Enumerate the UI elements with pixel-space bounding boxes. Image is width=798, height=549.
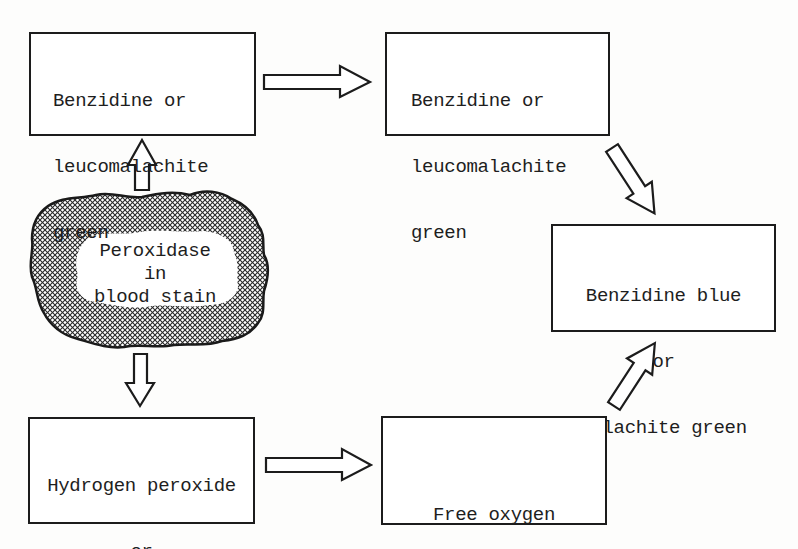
- label-line: Benzidine blue: [566, 285, 761, 307]
- arrow-right-icon: [266, 449, 371, 480]
- arrow-down-right-icon: [599, 140, 667, 222]
- node-reagent-top-right-label: Benzidine or leucomalachite green: [411, 46, 566, 266]
- label-line: Free oxygen: [381, 504, 607, 526]
- label-line: leucomalachite: [53, 156, 208, 178]
- node-catalyst-label: Peroxidase in blood stain: [80, 240, 230, 309]
- label-line: Hydrogen peroxide: [34, 475, 249, 497]
- label-line: green: [411, 222, 566, 244]
- label-line: blood stain: [80, 286, 230, 309]
- label-line: Peroxidase: [80, 240, 230, 263]
- label-line: or: [566, 351, 761, 373]
- node-oxidizer-label: Hydrogen peroxide or barium peroxide: [34, 431, 249, 549]
- label-line: leucomalachite: [411, 156, 566, 178]
- node-reagent-top-left-label: Benzidine or leucomalachite green: [53, 46, 208, 266]
- node-oxygen-label: Free oxygen: [381, 460, 607, 548]
- arrow-right-icon: [264, 66, 370, 97]
- label-line: Benzidine or: [53, 90, 208, 112]
- arrow-down-icon: [126, 354, 154, 406]
- label-line: Benzidine or: [411, 90, 566, 112]
- label-line: in: [80, 263, 230, 286]
- label-line: or: [34, 541, 249, 549]
